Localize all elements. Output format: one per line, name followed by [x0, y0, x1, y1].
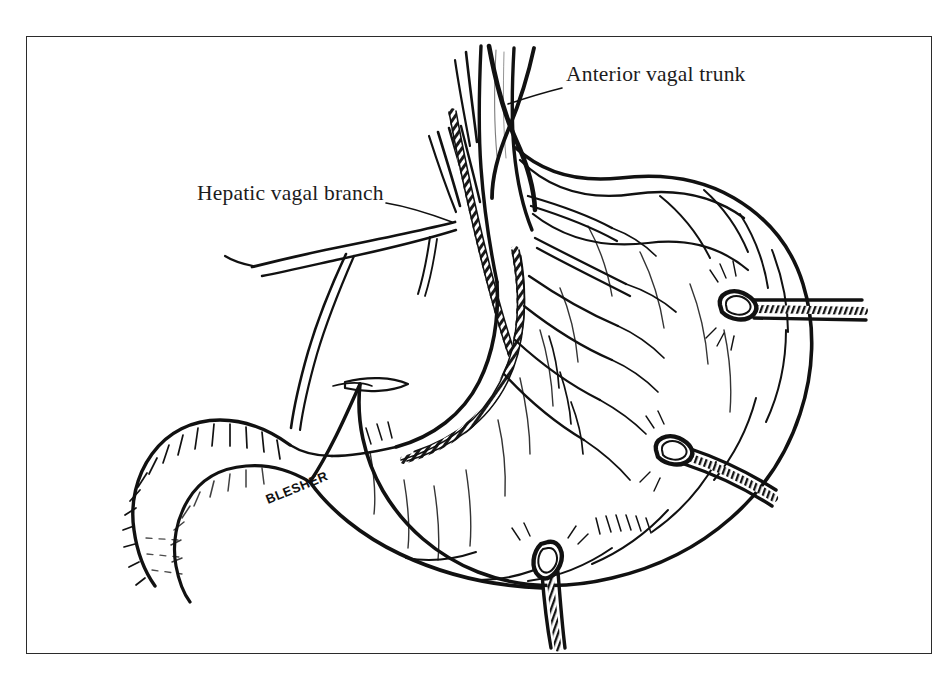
hepatic-vagal-branch [225, 222, 456, 430]
duodenum-hatching [123, 424, 280, 585]
label-hepatic-vagal-branch: Hepatic vagal branch [197, 183, 384, 205]
stomach-surface-creases [370, 226, 731, 560]
figure-root: BLESHER Anterior vagal trunk Hepatic vag… [0, 0, 946, 674]
esophagus [479, 46, 535, 282]
illustration-ink: BLESHER [123, 46, 866, 648]
duodenum-inner-hatching [171, 468, 264, 562]
antrum-pylorus [290, 384, 542, 588]
leader-line-hepatic-vagal-branch [386, 203, 452, 222]
anatomical-illustration: BLESHER [0, 0, 946, 674]
leader-line-anterior-vagal-trunk [508, 88, 562, 104]
label-anterior-vagal-trunk: Anterior vagal trunk [566, 64, 746, 86]
duodenum [123, 420, 310, 602]
